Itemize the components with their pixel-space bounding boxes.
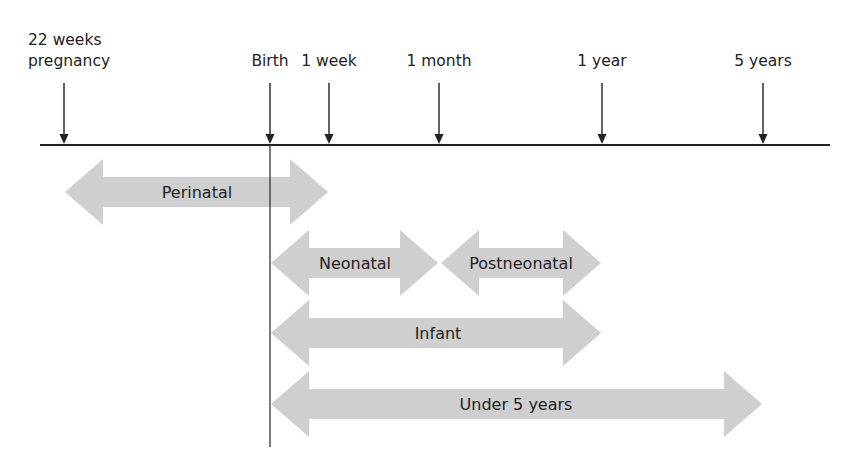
tick-1-year: 1 year [577,52,627,144]
period-bands: PerinatalNeonatalPostneonatalInfantUnder… [65,159,762,437]
band-label: Under 5 years [460,395,573,414]
down-arrow-icon [266,134,275,144]
down-arrow-icon [598,134,607,144]
tick-label: 1 week [301,52,357,70]
down-arrow-icon [759,134,768,144]
down-arrow-icon [325,134,334,144]
tick-label: Birth [251,52,288,70]
tick-label: 1 month [406,52,471,70]
tick-5-years: 5 years [734,52,791,144]
age-period-timeline-diagram: PerinatalNeonatalPostneonatalInfantUnder… [0,0,850,467]
band-neonatal: Neonatal [271,230,438,296]
tick-label: pregnancy [28,52,110,70]
band-label: Neonatal [319,254,391,273]
band-infant: Infant [271,300,601,366]
band-label: Postneonatal [469,254,573,273]
band-label: Infant [415,324,462,343]
tick-label: 22 weeks [28,31,101,49]
band-perinatal: Perinatal [65,159,328,225]
down-arrow-icon [435,134,444,144]
tick-label: 5 years [734,52,791,70]
tick-22-weeks-pregnancy: 22 weekspregnancy [28,31,110,144]
band-label: Perinatal [162,183,232,202]
tick-label: 1 year [577,52,627,70]
timeline-ticks: 22 weekspregnancyBirth1 week1 month1 yea… [28,31,792,144]
tick-1-week: 1 week [301,52,357,144]
band-postneonatal: Postneonatal [441,230,601,296]
band-under-5-years: Under 5 years [271,371,762,437]
down-arrow-icon [60,134,69,144]
tick-birth: Birth [251,52,288,144]
tick-1-month: 1 month [406,52,471,144]
